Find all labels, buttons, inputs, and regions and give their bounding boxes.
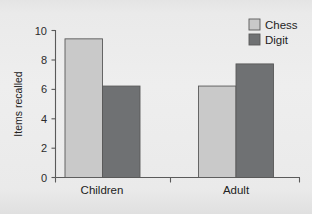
y-tick-label-2: 2 xyxy=(41,142,47,154)
bar-adult-digit xyxy=(236,64,274,178)
legend-swatch-chess xyxy=(249,19,260,30)
bar-chart-figure: 10 8 6 4 2 0 Items recalled Children Adu… xyxy=(0,0,312,214)
y-tick-label-0: 0 xyxy=(41,172,47,184)
bar-children-chess xyxy=(65,39,103,178)
x-axis-ticks xyxy=(56,178,300,183)
chart-svg: 10 8 6 4 2 0 Items recalled Children Adu… xyxy=(0,0,312,214)
y-tick-label-4: 4 xyxy=(41,113,47,125)
x-tick-label-children: Children xyxy=(81,184,124,196)
y-tick-label-10: 10 xyxy=(35,25,47,37)
y-tick-label-6: 6 xyxy=(41,83,47,95)
y-axis-ticks xyxy=(52,31,56,178)
bar-children-digit xyxy=(103,86,141,177)
chart-legend: Chess Digit xyxy=(249,19,298,46)
legend-swatch-digit xyxy=(249,34,260,45)
y-tick-label-8: 8 xyxy=(41,54,47,66)
bar-adult-chess xyxy=(199,86,237,177)
legend-label-digit: Digit xyxy=(265,34,289,46)
x-tick-label-adult: Adult xyxy=(223,184,250,196)
legend-label-chess: Chess xyxy=(265,19,298,31)
caption-strip xyxy=(0,202,312,214)
y-axis-title: Items recalled xyxy=(12,71,24,137)
